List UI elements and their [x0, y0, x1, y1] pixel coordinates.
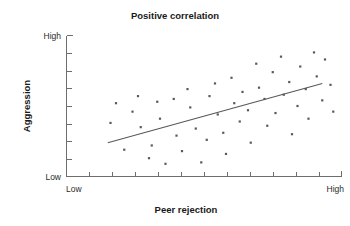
chart-canvas: Positive correlation Aggression Peer rej…: [0, 0, 350, 226]
data-point: [316, 75, 318, 77]
data-point: [173, 98, 175, 100]
data-point: [288, 81, 290, 83]
x-axis-label: Peer rejection: [155, 204, 218, 215]
trend-line: [108, 83, 323, 142]
data-point: [195, 127, 197, 129]
data-point: [230, 77, 232, 79]
data-point: [186, 88, 188, 90]
data-point: [164, 163, 166, 165]
data-point: [115, 102, 117, 104]
data-point: [305, 88, 307, 90]
data-point: [332, 111, 334, 113]
data-point: [313, 51, 315, 53]
data-point: [239, 120, 241, 122]
data-point: [296, 105, 298, 107]
data-point: [250, 142, 252, 144]
data-point-group: [109, 51, 334, 165]
x-axis-high-label: High: [327, 184, 345, 194]
data-point: [181, 150, 183, 152]
data-point: [214, 82, 216, 84]
y-axis-high-label: High: [44, 31, 62, 41]
y-axis-ticks: [67, 54, 72, 160]
data-point: [247, 109, 249, 111]
y-axis-low-label: Low: [45, 172, 61, 182]
data-point: [274, 112, 276, 114]
data-point: [307, 118, 309, 120]
data-point: [324, 58, 326, 60]
data-point: [299, 65, 301, 67]
data-point: [283, 94, 285, 96]
data-point: [329, 84, 331, 86]
data-point: [291, 133, 293, 135]
data-point: [148, 157, 150, 159]
data-point: [156, 101, 158, 103]
data-point: [280, 56, 282, 58]
data-point: [255, 63, 257, 65]
data-point: [189, 106, 191, 108]
scatter-plot-figure: Positive correlation Aggression Peer rej…: [0, 0, 350, 226]
x-axis-ticks: [90, 172, 320, 177]
data-point: [266, 125, 268, 127]
data-point: [222, 132, 224, 134]
data-point: [137, 95, 139, 97]
data-point: [225, 153, 227, 155]
data-point: [151, 144, 153, 146]
data-point: [175, 135, 177, 137]
axis-spines: [67, 36, 342, 177]
data-point: [233, 102, 235, 104]
data-point: [321, 99, 323, 101]
data-point: [206, 139, 208, 141]
data-point: [272, 71, 274, 73]
y-axis-label: Aggression: [21, 80, 32, 132]
data-point: [258, 87, 260, 89]
data-point: [208, 95, 210, 97]
data-point: [241, 91, 243, 93]
data-point: [159, 118, 161, 120]
chart-title: Positive correlation: [131, 10, 219, 21]
data-point: [263, 98, 265, 100]
data-point: [200, 161, 202, 163]
data-point: [140, 126, 142, 128]
data-point: [109, 122, 111, 124]
data-point: [217, 113, 219, 115]
x-axis-low-label: Low: [66, 184, 82, 194]
data-point: [131, 111, 133, 113]
data-point: [123, 149, 125, 151]
